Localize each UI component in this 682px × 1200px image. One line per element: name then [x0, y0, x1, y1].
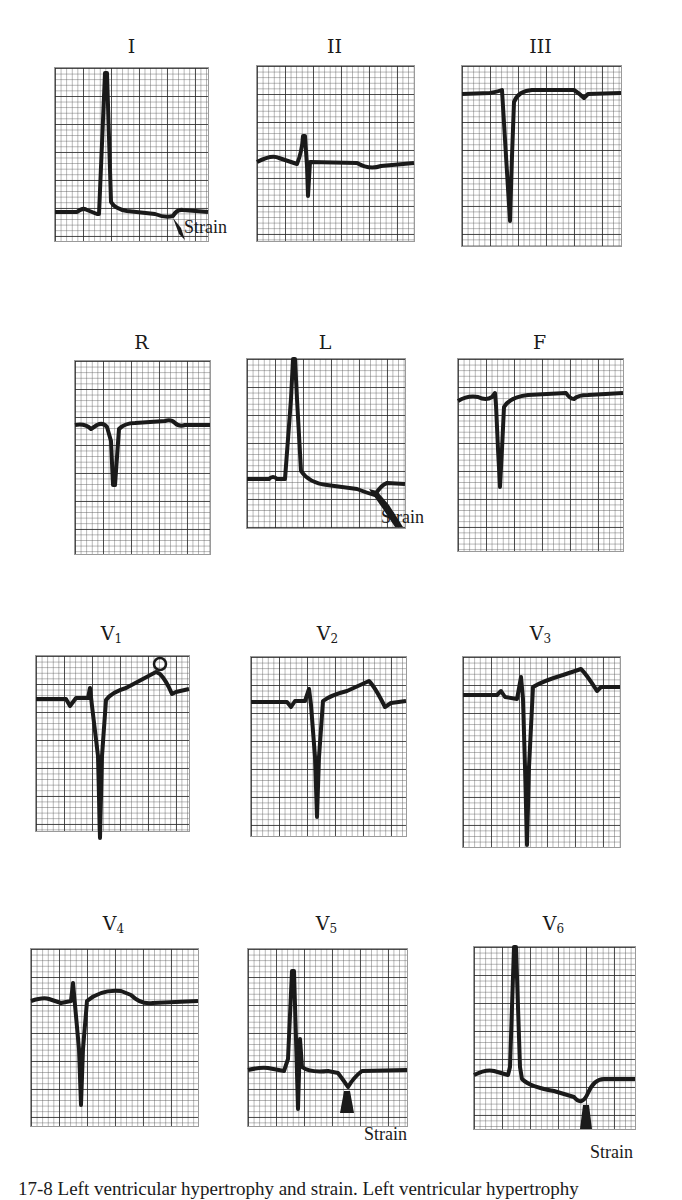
lead-label: II — [327, 35, 342, 57]
lead-title-V5: V5 — [247, 913, 406, 939]
strain-label-I: Strain — [184, 218, 227, 236]
ecg-trace-V3 — [463, 657, 620, 847]
lead-title-III: III — [461, 36, 620, 56]
lead-label: V — [543, 912, 557, 934]
lead-subscript: 1 — [115, 632, 123, 646]
ecg-strip-lead-V3 — [462, 656, 621, 848]
lead-title-V4: V4 — [30, 913, 197, 939]
ecg-strip-lead-V5 — [247, 948, 408, 1127]
ecg-trace-V6 — [474, 947, 635, 1129]
lead-label: III — [529, 35, 552, 57]
strain-label-L: Strain — [381, 508, 424, 526]
ecg-strip-lead-F — [457, 358, 624, 552]
lead-title-V1: V1 — [35, 623, 188, 649]
ecg-strip-lead-II — [256, 65, 415, 242]
lead-title-I: I — [54, 36, 209, 56]
ecg-strip-lead-L — [246, 358, 406, 529]
ecg-trace-L — [247, 359, 405, 528]
lead-label: V — [103, 912, 117, 934]
ecg-strip-lead-I — [54, 67, 209, 242]
lead-subscript: 5 — [330, 922, 338, 936]
ecg-trace-V2 — [251, 657, 406, 836]
ecg-trace-V4 — [31, 949, 198, 1126]
ecg-trace-I — [55, 68, 208, 241]
lead-title-V6: V6 — [473, 913, 634, 939]
lead-title-F: F — [457, 332, 622, 352]
lead-subscript: 4 — [117, 922, 125, 936]
ecg-trace-III — [462, 66, 621, 246]
ecg-strip-lead-R — [74, 360, 211, 555]
lead-label: V — [101, 622, 115, 644]
lead-title-V3: V3 — [462, 623, 619, 649]
ecg-trace-II — [257, 66, 414, 241]
strain-label-V5: Strain — [364, 1125, 407, 1143]
lead-label: F — [533, 331, 546, 353]
lead-title-V2: V2 — [250, 623, 405, 649]
lead-subscript: 6 — [557, 922, 565, 936]
lead-label: I — [128, 35, 136, 57]
figure-caption: 17-8 Left ventricular hypertrophy and st… — [18, 1178, 678, 1200]
lead-title-II: II — [256, 36, 413, 56]
ecg-strip-lead-V6 — [473, 946, 636, 1130]
lead-subscript: 3 — [544, 632, 552, 646]
ecg-trace-V5 — [248, 949, 407, 1126]
lead-label: V — [316, 912, 330, 934]
ecg-strip-lead-III — [461, 65, 622, 247]
strain-label-V6: Strain — [590, 1143, 633, 1161]
ecg-trace-F — [458, 359, 623, 551]
ecg-strip-lead-V2 — [250, 656, 407, 837]
lead-subscript: 2 — [331, 632, 339, 646]
lead-label: R — [134, 331, 148, 353]
lead-label: V — [530, 622, 544, 644]
lead-title-L: L — [246, 332, 404, 352]
ecg-strip-lead-V1 — [35, 655, 190, 832]
ecg-trace-V1 — [36, 656, 189, 831]
lead-label: L — [319, 331, 332, 353]
ecg-trace-R — [75, 361, 210, 554]
ecg-strip-lead-V4 — [30, 948, 199, 1127]
lead-label: V — [317, 622, 331, 644]
lead-title-R: R — [74, 332, 209, 352]
